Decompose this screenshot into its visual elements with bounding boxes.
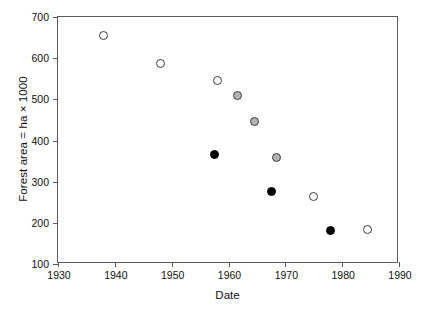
y-axis-title: Forest area = ha × 1000	[17, 29, 29, 249]
x-axis-tick: 1990	[399, 262, 400, 267]
data-point-marker	[233, 91, 242, 100]
x-axis-tick: 1970	[285, 262, 286, 267]
data-point-marker	[309, 192, 318, 201]
x-axis-tick-label: 1960	[208, 269, 252, 281]
x-axis-tick-label: 1990	[378, 269, 422, 281]
x-axis-tick: 1980	[342, 262, 343, 267]
x-axis-tick-label: 1970	[264, 269, 308, 281]
y-axis-tick-label: 600	[31, 52, 49, 64]
x-axis-tick: 1940	[115, 262, 116, 267]
data-point-marker	[210, 150, 219, 159]
y-axis-tick: 200	[53, 223, 58, 224]
y-axis-tick: 300	[53, 182, 58, 183]
y-axis-tick: 700	[53, 17, 58, 18]
data-point-marker	[272, 153, 281, 162]
data-point-marker	[363, 225, 372, 234]
y-axis-tick-label: 400	[31, 135, 49, 147]
data-point-marker	[250, 117, 259, 126]
x-axis-tick: 1950	[172, 262, 173, 267]
x-axis-tick-label: 1930	[37, 269, 81, 281]
y-axis-tick-label: 500	[31, 93, 49, 105]
y-axis-tick-label: 200	[31, 217, 49, 229]
x-axis-title: Date	[57, 289, 398, 301]
y-axis-tick-label: 300	[31, 176, 49, 188]
y-axis-tick-label: 700	[31, 11, 49, 23]
data-point-marker	[156, 59, 165, 68]
y-axis-tick: 400	[53, 141, 58, 142]
scatter-chart-figure: Forest area = ha × 1000 1002003004005006…	[0, 0, 424, 317]
x-axis-tick-label: 1940	[94, 269, 138, 281]
plot-area: 100200300400500600700 193019401950196019…	[57, 16, 398, 263]
y-axis-tick: 600	[53, 58, 58, 59]
data-point-marker	[99, 31, 108, 40]
x-axis-tick: 1960	[229, 262, 230, 267]
data-point-marker	[326, 226, 335, 235]
x-axis-tick-label: 1980	[321, 269, 365, 281]
x-axis-tick: 1930	[58, 262, 59, 267]
x-axis-tick-label: 1950	[151, 269, 195, 281]
data-point-marker	[213, 76, 222, 85]
data-point-marker	[267, 187, 276, 196]
y-axis-tick: 500	[53, 99, 58, 100]
